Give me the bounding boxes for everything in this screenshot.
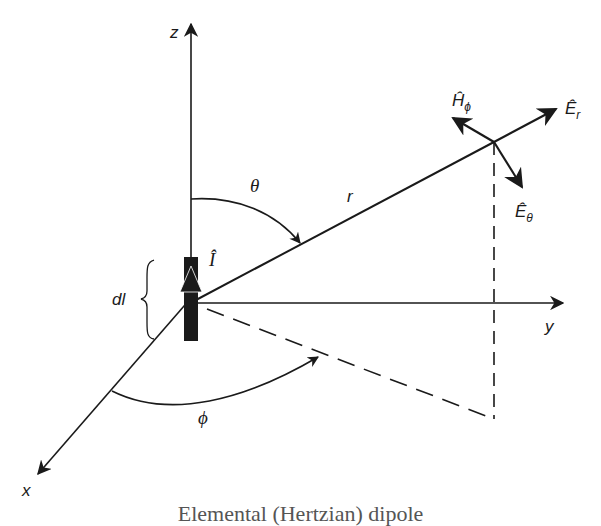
- dl-brace: dl: [112, 260, 154, 339]
- y-axis: y: [196, 303, 563, 336]
- r-label: r: [347, 187, 354, 206]
- y-axis-label: y: [544, 317, 555, 336]
- e-r-label: Êr: [565, 99, 581, 122]
- current-label: Î: [208, 249, 217, 270]
- radius-vector: r: [196, 142, 494, 300]
- h-phi-label: Ĥϕ: [452, 91, 471, 114]
- field-vectors: Êr Ĥϕ Êθ: [452, 91, 581, 225]
- dipole-element: Î: [180, 249, 217, 341]
- e-theta-label: Êθ: [515, 202, 533, 225]
- x-axis: x: [21, 298, 191, 500]
- phi-label: ϕ: [198, 407, 208, 428]
- z-axis-label: z: [169, 23, 179, 42]
- theta-arc: θ: [191, 175, 300, 243]
- dl-label: dl: [112, 290, 126, 309]
- phi-arc: ϕ: [112, 357, 318, 428]
- figure-caption: Elemental (Hertzian) dipole: [0, 503, 601, 525]
- x-axis-label: x: [21, 481, 31, 500]
- theta-label: θ: [250, 175, 259, 196]
